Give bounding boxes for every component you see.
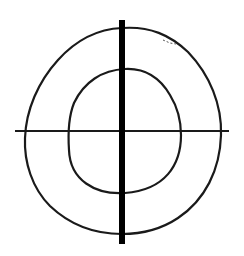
vertical-axis <box>119 20 125 244</box>
diagram-canvas <box>0 0 244 256</box>
